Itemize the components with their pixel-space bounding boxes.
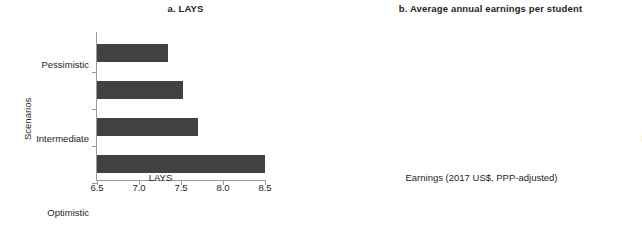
chart-panel-b: b. Average annual earnings per student S… xyxy=(321,0,642,233)
panel-a-x-axis-title: LAYS xyxy=(0,172,321,183)
x-tick-label: 6.5 xyxy=(90,182,103,193)
bar-optimistic[interactable]: Optimistic xyxy=(97,118,198,136)
y-tick xyxy=(92,146,97,147)
bar-baseline[interactable]: Baseline xyxy=(97,155,265,173)
figure-container: a. LAYS Scenarios PessimisticIntermediat… xyxy=(0,0,642,233)
y-tick xyxy=(92,72,97,73)
panel-b-title: b. Average annual earnings per student xyxy=(321,3,642,14)
y-tick xyxy=(92,109,97,110)
bar-intermediate[interactable]: Intermediate xyxy=(97,81,183,99)
category-label-pessimistic: Pessimistic xyxy=(41,56,89,74)
x-tick-label: 8.5 xyxy=(258,182,271,193)
panel-a-plot-area: PessimisticIntermediateOptimisticBaselin… xyxy=(97,32,265,180)
panel-a-title: a. LAYS xyxy=(0,3,321,14)
category-label-intermediate: Intermediate xyxy=(36,130,89,148)
x-tick-label: 7.0 xyxy=(132,182,145,193)
x-tick-label: 7.5 xyxy=(174,182,187,193)
category-label-optimistic: Optimistic xyxy=(47,204,89,222)
x-tick-label: 8.0 xyxy=(216,182,229,193)
panel-a-y-axis-title: Scenarios xyxy=(22,98,33,140)
bar-pessimistic[interactable]: Pessimistic xyxy=(97,44,168,62)
chart-panel-a: a. LAYS Scenarios PessimisticIntermediat… xyxy=(0,0,321,233)
panel-b-x-axis-title: Earnings (2017 US$, PPP-adjusted) xyxy=(321,172,642,183)
